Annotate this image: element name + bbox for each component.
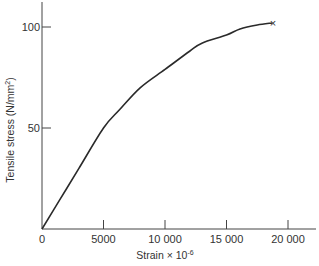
x-axis-title: Strain × 10-6 [136,249,193,261]
x-tick-label: 0 [39,233,45,245]
x-tick-label: 20 000 [271,233,305,245]
stress-strain-chart: 0500010 00015 00020 00050100 × Strain × … [0,0,319,266]
x-tick-label: 5000 [91,233,115,245]
fracture-marker-icon: × [270,17,276,29]
x-tick-label: 10 000 [148,233,182,245]
axis-ticks: 0500010 00015 00020 00050100 [22,21,305,245]
y-tick-label: 100 [22,21,40,33]
y-tick-label: 50 [28,122,40,134]
axes [42,2,316,229]
x-tick-label: 15 000 [210,233,244,245]
y-axis-title: Tensile stress (N/mm2) [4,77,16,182]
stress-strain-curve [42,23,272,229]
